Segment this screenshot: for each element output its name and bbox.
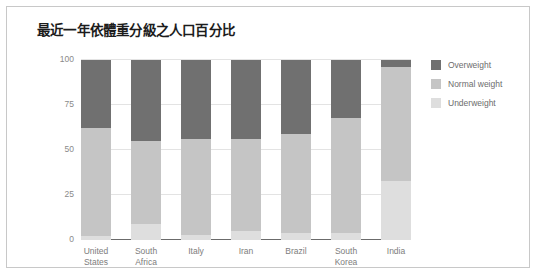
bar-segment[interactable]: [181, 235, 211, 240]
bar-segment[interactable]: [81, 60, 111, 128]
legend-swatch-icon: [431, 60, 441, 70]
bar-segment[interactable]: [231, 139, 261, 231]
x-axis-tick-label: South Africa: [135, 246, 157, 267]
bar-group[interactable]: India: [381, 60, 411, 240]
plot-area: 0255075100 United StatesSouth AfricaItal…: [81, 60, 411, 240]
bar-group[interactable]: Brazil: [281, 60, 311, 240]
bar-segment[interactable]: [281, 60, 311, 134]
bar-segment[interactable]: [81, 128, 111, 236]
legend-item[interactable]: Underweight: [431, 98, 527, 108]
bar-segment[interactable]: [131, 60, 161, 141]
bar-segment[interactable]: [131, 141, 161, 224]
bar-segment[interactable]: [81, 236, 111, 240]
y-axis-tick-label: 75: [65, 99, 74, 109]
x-axis-tick-label: Italy: [188, 246, 204, 257]
bar-segment[interactable]: [331, 233, 361, 240]
bar-segment[interactable]: [281, 233, 311, 240]
x-axis-tick-label: India: [387, 246, 405, 257]
chart-legend: OverweightNormal weightUnderweight: [431, 60, 527, 117]
bar-group[interactable]: Iran: [231, 60, 261, 240]
chart-card: 最近一年依體重分級之人口百分比 0255075100 United States…: [6, 6, 530, 268]
legend-item[interactable]: Normal weight: [431, 79, 527, 89]
bar-segment[interactable]: [381, 67, 411, 180]
x-axis-tick-label: Brazil: [285, 246, 306, 257]
y-axis-tick-label: 50: [65, 144, 74, 154]
y-axis-tick-label: 0: [69, 234, 74, 244]
bar-segment[interactable]: [331, 60, 361, 118]
bar-segment[interactable]: [131, 224, 161, 240]
legend-item-label: Normal weight: [448, 79, 502, 89]
bar-segment[interactable]: [181, 60, 211, 139]
bar-group[interactable]: South Africa: [131, 60, 161, 240]
bar-segment[interactable]: [281, 134, 311, 233]
legend-swatch-icon: [431, 79, 441, 89]
y-axis-tick-label: 100: [60, 54, 74, 64]
bars-layer: United StatesSouth AfricaItalyIranBrazil…: [81, 60, 411, 240]
bar-group[interactable]: South Korea: [331, 60, 361, 240]
bar-segment[interactable]: [181, 139, 211, 234]
legend-swatch-icon: [431, 98, 441, 108]
legend-item-label: Underweight: [448, 98, 496, 108]
y-axis-tick-label: 25: [65, 189, 74, 199]
bar-segment[interactable]: [231, 231, 261, 240]
x-axis-tick-label: United States: [84, 246, 109, 267]
page-title: 最近一年依體重分級之人口百分比: [37, 19, 235, 39]
x-axis-tick-label: Iran: [239, 246, 254, 257]
bar-segment[interactable]: [331, 118, 361, 233]
bar-segment[interactable]: [381, 181, 411, 240]
legend-item-label: Overweight: [448, 60, 491, 70]
bar-group[interactable]: Italy: [181, 60, 211, 240]
bar-segment[interactable]: [231, 60, 261, 139]
bar-group[interactable]: United States: [81, 60, 111, 240]
bar-segment[interactable]: [381, 60, 411, 67]
legend-item[interactable]: Overweight: [431, 60, 527, 70]
x-axis-tick-label: South Korea: [335, 246, 358, 267]
